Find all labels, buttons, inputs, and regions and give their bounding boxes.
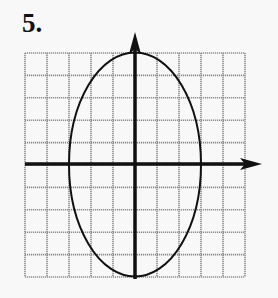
x-axis xyxy=(25,158,262,170)
graph xyxy=(0,0,278,298)
y-axis xyxy=(129,32,141,279)
